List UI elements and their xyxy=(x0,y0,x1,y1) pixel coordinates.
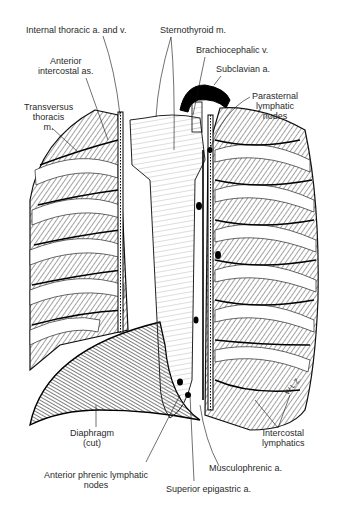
right-chest-wall xyxy=(205,108,318,430)
label-brachiocephalic: Brachiocephalic v. xyxy=(196,45,268,55)
label-parasternal-nodes: Parasternal lymphatic nodes xyxy=(252,91,298,121)
label-transversus-thoracis: Transversus thoracis m. xyxy=(24,102,73,132)
label-anterior-intercostal: Anterior intercostal as. xyxy=(38,56,94,76)
anatomy-figure: W.L.Z. Internal thoracic a. and v. Anter… xyxy=(0,0,337,506)
label-superior-epigastric: Superior epigastric a. xyxy=(166,484,251,494)
label-internal-thoracic: Internal thoracic a. and v. xyxy=(26,25,126,35)
label-intercostal-lymphatics: Intercostal lymphatics xyxy=(262,428,305,448)
label-anterior-phrenic-nodes: Anterior phrenic lymphatic nodes xyxy=(44,470,148,490)
label-subclavian: Subclavian a. xyxy=(216,64,270,74)
left-chest-wall xyxy=(30,110,128,370)
label-diaphragm: Diaphragm (cut) xyxy=(70,428,114,448)
label-sternothyroid: Sternothyroid m. xyxy=(160,25,226,35)
label-musculophrenic: Musculophrenic a. xyxy=(209,463,282,473)
